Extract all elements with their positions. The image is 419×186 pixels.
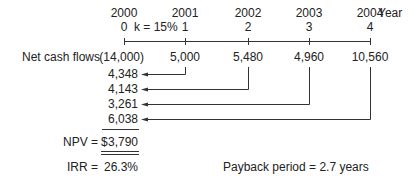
discount-arrow-3	[147, 67, 310, 105]
timeline-lines	[0, 0, 419, 186]
discount-arrow-1	[147, 67, 186, 75]
arrow-head-icon	[141, 103, 148, 107]
discount-arrow-2	[147, 67, 249, 90]
arrow-head-icon	[141, 73, 148, 77]
arrow-heads	[141, 73, 148, 122]
arrow-head-icon	[141, 88, 148, 92]
arrow-head-icon	[141, 118, 148, 122]
